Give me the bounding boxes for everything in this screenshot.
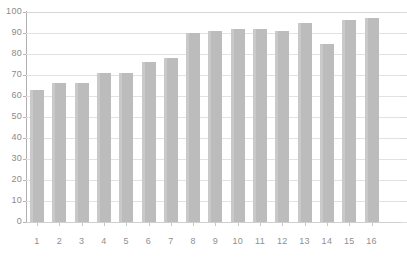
bar-highlight [142, 62, 145, 222]
x-tick-label-7: 7 [160, 236, 182, 246]
bar [186, 33, 200, 222]
right-tick-20 [401, 180, 407, 181]
x-tick-mark-11 [260, 223, 261, 226]
bar-highlight [342, 20, 345, 222]
x-tick-mark-15 [349, 223, 350, 226]
x-tick-label-11: 11 [249, 236, 271, 246]
x-tick-label-1: 1 [26, 236, 48, 246]
bar-highlight [253, 29, 256, 222]
bar-highlight [365, 18, 368, 222]
y-tick-label-80: 80 [0, 49, 22, 58]
x-tick-label-16: 16 [361, 236, 383, 246]
bar-highlight [52, 83, 55, 222]
x-tick-label-3: 3 [71, 236, 93, 246]
bar [365, 18, 379, 222]
y-tick-label-0: 0 [0, 217, 22, 226]
bar [231, 29, 245, 222]
x-tick-label-2: 2 [48, 236, 70, 246]
bar [119, 73, 133, 222]
right-tick-10 [401, 201, 407, 202]
bar-highlight [186, 33, 189, 222]
x-tick-mark-10 [238, 223, 239, 226]
y-tick-label-60: 60 [0, 91, 22, 100]
x-tick-mark-1 [37, 223, 38, 226]
right-tick-0 [401, 222, 407, 223]
bar [52, 83, 66, 222]
x-tick-label-12: 12 [271, 236, 293, 246]
bar [298, 23, 312, 223]
x-tick-mark-8 [193, 223, 194, 226]
bar [208, 31, 222, 222]
y-tick-label-10: 10 [0, 196, 22, 205]
bar-highlight [119, 73, 122, 222]
y-tick-label-50: 50 [0, 112, 22, 121]
right-tick-90 [401, 33, 407, 34]
bar [342, 20, 356, 222]
x-tick-mark-13 [305, 223, 306, 226]
x-tick-label-10: 10 [227, 236, 249, 246]
x-tick-mark-14 [327, 223, 328, 226]
right-tick-60 [401, 96, 407, 97]
x-tick-mark-9 [215, 223, 216, 226]
right-tick-100 [401, 12, 407, 13]
x-tick-label-13: 13 [294, 236, 316, 246]
x-tick-label-4: 4 [93, 236, 115, 246]
x-tick-label-15: 15 [338, 236, 360, 246]
bar-highlight [231, 29, 234, 222]
x-tick-label-6: 6 [138, 236, 160, 246]
x-tick-mark-2 [59, 223, 60, 226]
y-tick-label-100: 100 [0, 7, 22, 16]
bar-highlight [30, 90, 33, 222]
bar-highlight [75, 83, 78, 222]
y-tick-label-30: 30 [0, 154, 22, 163]
bar-highlight [208, 31, 211, 222]
x-tick-mark-16 [372, 223, 373, 226]
bar [75, 83, 89, 222]
bar [97, 73, 111, 222]
bar-highlight [97, 73, 100, 222]
x-tick-label-5: 5 [115, 236, 137, 246]
y-tick-label-40: 40 [0, 133, 22, 142]
bar [164, 58, 178, 222]
right-tick-40 [401, 138, 407, 139]
gridline-100 [26, 12, 407, 13]
bar-highlight [320, 44, 323, 223]
x-tick-label-8: 8 [182, 236, 204, 246]
x-tick-mark-12 [282, 223, 283, 226]
bar [253, 29, 267, 222]
plot-area [26, 11, 407, 222]
x-tick-mark-5 [126, 223, 127, 226]
bar [142, 62, 156, 222]
right-tick-80 [401, 54, 407, 55]
right-tick-50 [401, 117, 407, 118]
bar-highlight [275, 31, 278, 222]
x-tick-label-14: 14 [316, 236, 338, 246]
y-tick-label-70: 70 [0, 70, 22, 79]
bar-chart: 0102030405060708090100 12345678910111213… [0, 0, 407, 264]
x-tick-mark-7 [171, 223, 172, 226]
y-tick-label-20: 20 [0, 175, 22, 184]
bar-highlight [164, 58, 167, 222]
bar [30, 90, 44, 222]
x-tick-mark-6 [149, 223, 150, 226]
bar [275, 31, 289, 222]
x-tick-mark-3 [82, 223, 83, 226]
x-tick-mark-4 [104, 223, 105, 226]
x-tick-label-9: 9 [204, 236, 226, 246]
right-tick-30 [401, 159, 407, 160]
bar-highlight [298, 23, 301, 223]
y-tick-label-90: 90 [0, 28, 22, 37]
bar [320, 44, 334, 223]
right-tick-70 [401, 75, 407, 76]
